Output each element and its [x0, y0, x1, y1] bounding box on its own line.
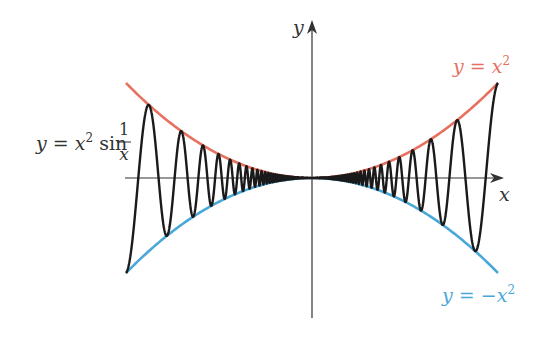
- fraction-numerator: 1: [119, 120, 129, 139]
- fraction-denominator: x: [119, 144, 129, 164]
- label-y-equals-neg-x-squared: y = −x2: [441, 283, 515, 306]
- y-axis-label: y: [292, 16, 304, 38]
- x-axis-label: x: [499, 183, 510, 205]
- label-y-equals-x-squared-sin-one-over-x: y = x2 sin 1 x: [35, 120, 131, 164]
- label-y-equals-x-squared: y = x2: [452, 54, 510, 77]
- chart: y x y = x2 y = −x2 y = x2 sin 1 x: [0, 0, 543, 340]
- svg-text:y = x2 sin: y = x2 sin: [35, 131, 127, 154]
